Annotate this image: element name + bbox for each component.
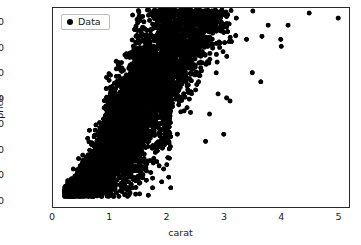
y-tick-mark — [52, 176, 53, 177]
y-tick-label: 2500 — [0, 171, 4, 181]
y-tick-label: 7500 — [0, 120, 4, 130]
x-tick-label: 3 — [221, 212, 227, 222]
x-tick-label: 0 — [49, 212, 55, 222]
y-tick-label: 0 — [0, 196, 4, 206]
x-tick-label: 2 — [164, 212, 170, 222]
y-tick-mark — [52, 100, 53, 101]
y-tick-mark — [52, 125, 53, 126]
x-tick-mark — [168, 207, 169, 208]
x-tick-label: 1 — [106, 212, 112, 222]
scatter-plot-figure: Data price carat 02500500075001000012500… — [0, 0, 361, 245]
scatter-points-layer — [53, 8, 349, 207]
y-tick-label: 12500 — [0, 69, 4, 79]
x-tick-mark — [282, 207, 283, 208]
legend-label-data: Data — [78, 17, 101, 27]
plot-axes-area: Data — [52, 7, 350, 208]
y-tick-mark — [52, 202, 53, 203]
y-tick-label: 10000 — [0, 94, 4, 104]
y-tick-mark — [52, 23, 53, 24]
x-tick-mark — [110, 207, 111, 208]
x-axis-title: carat — [0, 227, 361, 238]
y-tick-label: 5000 — [0, 145, 4, 155]
x-tick-label: 5 — [336, 212, 342, 222]
legend-marker-data-icon — [67, 19, 73, 25]
y-tick-label: 17500 — [0, 18, 4, 28]
x-tick-mark — [225, 207, 226, 208]
y-tick-mark — [52, 49, 53, 50]
y-tick-mark — [52, 74, 53, 75]
x-tick-label: 4 — [278, 212, 284, 222]
y-tick-mark — [52, 151, 53, 152]
chart-legend: Data — [61, 14, 110, 30]
x-tick-mark — [340, 207, 341, 208]
x-tick-mark — [53, 207, 54, 208]
y-tick-label: 15000 — [0, 43, 4, 53]
